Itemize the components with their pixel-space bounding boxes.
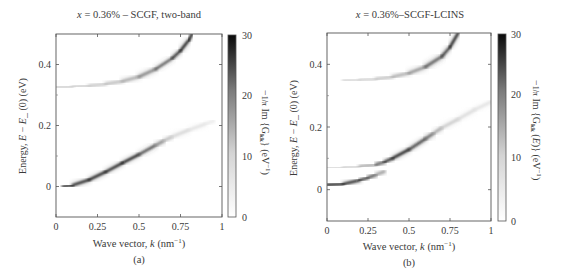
panel-a-colorbar: 30 20 10 0 −1/π Im {Gkk} (eV−1): [228, 30, 272, 223]
panel-a-title: x = 0.36% – SCGF, two-band: [76, 9, 202, 20]
x-tick-label: 0: [54, 221, 59, 232]
y-tick-label: 0.4: [310, 59, 323, 70]
panel-b: x = 0.36%–SCGF-LCINS 00.250.50.75100.20.…: [288, 9, 543, 269]
panel-a-colorbar-tick-0: 0: [242, 212, 247, 223]
panel-b-colorbar-label: −1/π Im {Gkk (E)} (eV−1): [529, 80, 543, 180]
x-tick-label: 0.25: [359, 225, 377, 236]
panel-a-colorbar-tick-20: 20: [242, 90, 252, 101]
panel-b-title: x = 0.36%–SCGF-LCINS: [355, 9, 464, 20]
x-tick-label: 0: [325, 225, 330, 236]
x-tick-label: 1: [489, 225, 494, 236]
panel-b-colorbar-tick-30: 30: [511, 29, 521, 40]
x-tick-label: 1: [220, 221, 225, 232]
panel-a-plot-area: 00.250.50.75100.20.4: [39, 34, 225, 232]
panel-b-caption: (b): [403, 257, 416, 269]
panel-a-ylabel: Energy, E − E_ (0) (eV): [17, 78, 29, 174]
panel-b-colorbar-tick-0: 0: [511, 216, 516, 227]
panel-b-xlabel: Wave vector, k (nm−1): [363, 240, 456, 253]
panel-a-caption: (a): [133, 254, 145, 266]
figure: x = 0.36% – SCGF, two-band 00.250.50.751…: [0, 0, 561, 277]
x-tick-label: 0.5: [403, 225, 416, 236]
band-segment: [327, 184, 343, 185]
panel-b-colorbar-tick-10: 10: [511, 152, 521, 163]
panel-a-xlabel: Wave vector, k (nm−1): [93, 237, 186, 250]
panel-a-colorbar-tick-10: 10: [242, 151, 252, 162]
x-tick-label: 0.75: [172, 221, 190, 232]
panel-a-colorbar-tick-30: 30: [242, 30, 252, 41]
y-tick-label: 0: [46, 181, 51, 192]
panel-a-colorbar-label: −1/π Im {Gkk} (eV−1): [258, 90, 272, 175]
x-tick-label: 0.25: [89, 221, 107, 232]
panel-b-ylabel: Energy, E − E_ (0) (eV): [288, 80, 300, 176]
panel-b-plot-area: 00.250.50.75100.20.4: [310, 33, 494, 236]
panel-b-colorbar-tick-20: 20: [511, 89, 521, 100]
band-segment: [63, 185, 73, 186]
y-tick-label: 0.4: [39, 59, 52, 70]
x-tick-label: 0.5: [133, 221, 146, 232]
band-segment: [89, 84, 106, 86]
panel-a: x = 0.36% – SCGF, two-band 00.250.50.751…: [17, 9, 272, 266]
y-tick-label: 0.2: [39, 120, 52, 131]
y-tick-label: 0: [317, 184, 322, 195]
panel-b-colorbar: 30 20 10 0 −1/π Im {Gkk (E)} (eV−1): [498, 29, 543, 227]
y-tick-label: 0.2: [310, 122, 323, 133]
x-tick-label: 0.75: [441, 225, 459, 236]
